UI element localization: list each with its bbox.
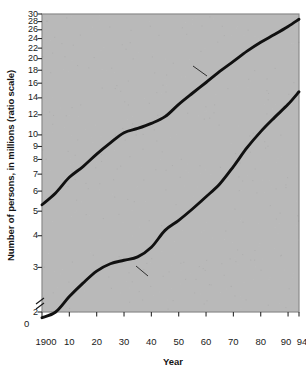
- leader-line-total-population: [193, 66, 207, 76]
- chart-figure: Number of persons, in millions (ratio sc…: [0, 0, 306, 378]
- y-axis-tick-labels: 302826242220181614121098765432: [16, 0, 38, 330]
- y-tick-label: 4: [33, 231, 38, 240]
- x-tick-label: 70: [228, 336, 239, 347]
- y-tick-label: 5: [33, 207, 38, 216]
- x-tick-label: 90: [281, 336, 292, 347]
- y-tick-label: 24: [28, 34, 38, 43]
- leader-line-civilian-labour-force: [136, 266, 148, 276]
- y-tick-label: 12: [28, 110, 38, 119]
- annotation-civilian-labour-force: Civilian labour force: [152, 272, 233, 282]
- y-axis-zero-label: 0: [24, 318, 29, 329]
- y-tick-label: 8: [33, 155, 38, 164]
- y-tick-label: 18: [28, 66, 38, 75]
- x-tick-label: 80: [255, 336, 266, 347]
- y-tick-label: 10: [28, 130, 38, 139]
- y-tick-label: 7: [33, 170, 38, 179]
- x-tick-label: 40: [146, 336, 157, 347]
- y-tick-label: 22: [28, 44, 38, 53]
- x-tick-label: 20: [91, 336, 102, 347]
- y-axis-title-text: Number of persons, in millions (ratio sc…: [5, 70, 16, 261]
- y-tick-label: 2: [33, 308, 38, 317]
- y-tick-label: 14: [28, 93, 38, 102]
- x-axis-title: Year: [42, 356, 304, 367]
- x-tick-label: 50: [173, 336, 184, 347]
- x-tick-label: 94: [297, 336, 306, 347]
- x-tick-label: 10: [64, 336, 75, 347]
- y-tick-label: 20: [28, 54, 38, 63]
- x-tick-label: 60: [201, 336, 212, 347]
- y-tick-label: 16: [28, 79, 38, 88]
- series-line-civilian-labour-force: [42, 92, 299, 318]
- y-tick-label: 9: [33, 142, 38, 151]
- series-line-total-population: [42, 19, 299, 205]
- y-tick-label: 3: [33, 263, 38, 272]
- x-tick-label: 30: [119, 336, 130, 347]
- annotation-total-population: Total population: [113, 57, 177, 67]
- y-tick-label: 6: [33, 187, 38, 196]
- x-tick-label: 1900: [35, 336, 56, 347]
